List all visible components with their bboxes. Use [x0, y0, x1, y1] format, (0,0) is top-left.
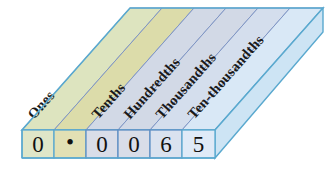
digit-value-ones: 0 — [32, 132, 44, 157]
digit-cell-hundredths: 0 — [118, 130, 150, 158]
digit-cells-row: 0 • 0 0 6 5 — [22, 130, 215, 158]
digit-value-ten-thousandths: 5 — [193, 132, 205, 157]
digit-cell-thousandths: 6 — [150, 130, 182, 158]
digit-cell-ones: 0 — [22, 130, 54, 158]
digit-value-decimal-point: • — [66, 130, 74, 155]
digit-value-hundredths: 0 — [128, 132, 140, 157]
digit-value-tenths: 0 — [96, 132, 108, 157]
digit-value-thousandths: 6 — [160, 132, 172, 157]
place-value-chart-svg: Ones Tenths Hundredths Thousandths Ten-t… — [0, 0, 333, 172]
digit-cell-ten-thousandths: 5 — [182, 130, 215, 158]
place-value-chart-diagram: Ones Tenths Hundredths Thousandths Ten-t… — [0, 0, 333, 172]
digit-cell-tenths: 0 — [86, 130, 118, 158]
digit-cell-decimal-point: • — [54, 130, 86, 158]
